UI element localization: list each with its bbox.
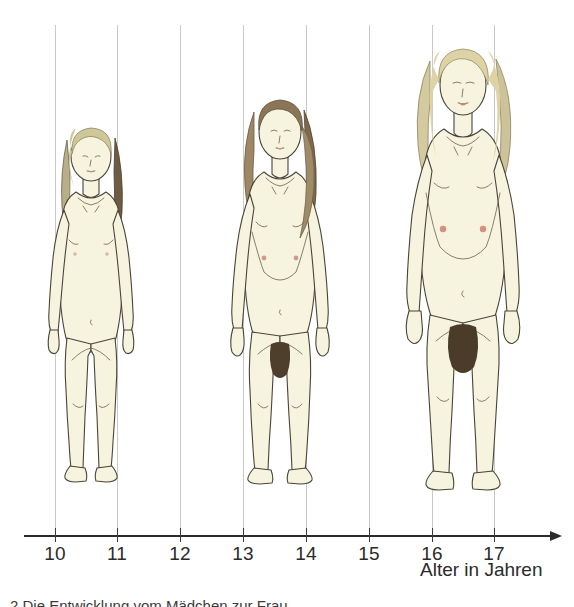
pubic-hair	[448, 324, 478, 373]
axis-tick-13	[243, 528, 244, 542]
gridline-15	[369, 25, 370, 535]
axis-tick-label-14: 14	[286, 543, 326, 565]
axis-title: Alter in Jahren	[420, 559, 543, 581]
axis-tick-label-12: 12	[160, 543, 200, 565]
gridline-12	[180, 25, 181, 535]
figure-woman-age-16-17	[392, 33, 534, 493]
axis-tick-17	[494, 528, 495, 542]
axis-tick-10	[55, 528, 56, 542]
axis-tick-label-15: 15	[349, 543, 389, 565]
axis-tick-label-13: 13	[223, 543, 263, 565]
axis-tick-15	[369, 528, 370, 542]
axis-tick-16	[432, 528, 433, 542]
axis-tick-label-10: 10	[35, 543, 75, 565]
illustration-canvas: 1011121314151617 Alter in Jahren 2 Die E…	[0, 0, 574, 607]
figure-drawing-puberty	[218, 86, 342, 486]
axis-tick-14	[306, 528, 307, 542]
figure-caption: 2 Die Entwicklung vom Mädchen zur Frau	[10, 595, 570, 607]
figure-drawing-child	[36, 112, 146, 484]
figure-girl-age-10-11	[36, 112, 146, 484]
pubic-hair	[270, 342, 290, 378]
axis-tick-11	[117, 528, 118, 542]
axis-line	[24, 535, 552, 537]
figure-girl-age-13-14	[218, 86, 342, 486]
axis-tick-12	[180, 528, 181, 542]
axis-arrow-icon	[550, 531, 562, 541]
axis-tick-label-11: 11	[97, 543, 137, 565]
figure-drawing-woman	[392, 33, 534, 493]
